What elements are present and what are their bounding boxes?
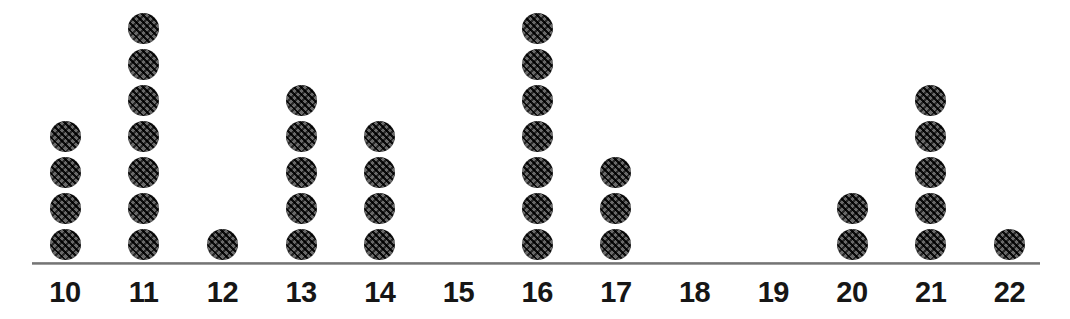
data-dot	[128, 13, 159, 44]
data-dot	[50, 229, 81, 260]
data-dot	[522, 157, 553, 188]
x-axis-tick-label-21: 21	[896, 275, 966, 309]
data-dot	[837, 193, 868, 224]
x-axis-tick-label-15: 15	[424, 275, 494, 309]
dot-column-22	[981, 229, 1037, 263]
data-dot	[364, 193, 395, 224]
x-axis-tick-label-14: 14	[345, 275, 415, 309]
data-dot	[915, 157, 946, 188]
data-dot	[286, 157, 317, 188]
data-dot	[522, 193, 553, 224]
data-dot	[50, 157, 81, 188]
data-dot	[522, 49, 553, 80]
x-axis-tick-label-13: 13	[266, 275, 336, 309]
data-dot	[522, 229, 553, 260]
dot-plot-field	[0, 0, 1070, 263]
dot-column-17	[588, 157, 644, 263]
data-dot	[915, 193, 946, 224]
data-dot	[286, 121, 317, 152]
data-dot	[522, 121, 553, 152]
dot-column-13	[273, 85, 329, 263]
data-dot	[837, 229, 868, 260]
data-dot	[600, 229, 631, 260]
data-dot	[364, 121, 395, 152]
data-dot	[522, 85, 553, 116]
data-dot	[286, 193, 317, 224]
dot-column-20	[824, 193, 880, 263]
data-dot	[50, 193, 81, 224]
dot-column-12	[194, 229, 250, 263]
data-dot	[364, 229, 395, 260]
dot-column-16	[509, 13, 565, 263]
data-dot	[286, 229, 317, 260]
x-axis-tick-label-12: 12	[187, 275, 257, 309]
x-axis-tick-label-22: 22	[974, 275, 1044, 309]
data-dot	[128, 193, 159, 224]
x-axis-tick-label-17: 17	[581, 275, 651, 309]
data-dot	[128, 229, 159, 260]
dot-column-10	[37, 121, 93, 263]
data-dot	[128, 85, 159, 116]
dot-column-14	[352, 121, 408, 263]
data-dot	[286, 85, 317, 116]
x-axis-tick-label-20: 20	[817, 275, 887, 309]
x-axis-tick-labels: 10111213141516171819202122	[0, 275, 1070, 315]
x-axis-line	[32, 262, 1040, 265]
dot-column-21	[903, 85, 959, 263]
dot-plot-figure: 10111213141516171819202122	[0, 0, 1070, 319]
x-axis-tick-label-19: 19	[738, 275, 808, 309]
x-axis-tick-label-11: 11	[109, 275, 179, 309]
x-axis-tick-label-10: 10	[30, 275, 100, 309]
x-axis-tick-label-18: 18	[660, 275, 730, 309]
data-dot	[915, 229, 946, 260]
data-dot	[915, 85, 946, 116]
data-dot	[128, 49, 159, 80]
dot-column-11	[116, 13, 172, 263]
x-axis-tick-label-16: 16	[502, 275, 572, 309]
data-dot	[364, 157, 395, 188]
data-dot	[994, 229, 1025, 260]
data-dot	[915, 121, 946, 152]
data-dot	[600, 193, 631, 224]
data-dot	[207, 229, 238, 260]
data-dot	[128, 121, 159, 152]
data-dot	[128, 157, 159, 188]
data-dot	[600, 157, 631, 188]
data-dot	[50, 121, 81, 152]
data-dot	[522, 13, 553, 44]
